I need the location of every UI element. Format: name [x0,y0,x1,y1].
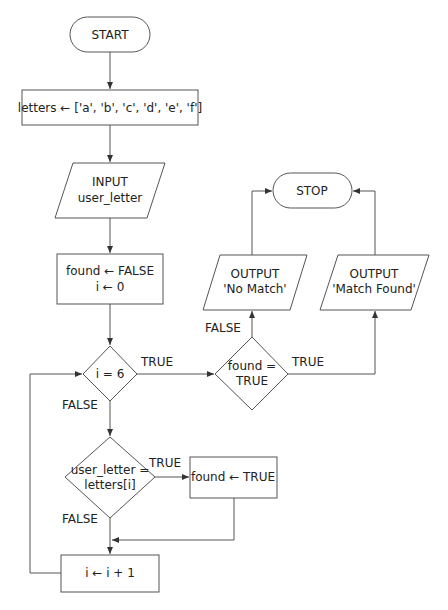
edge-nomatch-to-stop [252,191,272,255]
increment-process: i ← i + 1 [61,555,159,592]
output-nomatch-io: OUTPUT 'No Match' [203,255,307,310]
input-label-line1: INPUT [92,175,129,189]
edge-match-to-stop [353,191,375,255]
cond-found-true-label: TRUE [291,355,324,369]
edge-set-found-merge [112,498,234,540]
output-nomatch-line1: OUTPUT [231,267,281,281]
cond-found-decision: found = TRUE [215,337,288,410]
cond-found-line1: found = [228,359,276,373]
input-label-line2: user_letter [78,191,143,205]
vars-init-line1: found ← FALSE [66,264,154,278]
cond-match-true-label: TRUE [148,456,181,470]
cond-i-decision: i = 6 [83,346,137,401]
cond-match-line1: user_letter = [71,463,150,477]
letters-init-label: letters ← ['a', 'b', 'c', 'd', 'e', 'f'] [18,101,202,115]
cond-found-false-label: FALSE [205,321,241,335]
cond-match-decision: user_letter = letters[i] [65,437,155,518]
cond-i-label: i = 6 [96,367,125,381]
cond-found-line2: TRUE [235,374,268,388]
flowchart-canvas: START letters ← ['a', 'b', 'c', 'd', 'e'… [0,0,448,610]
input-io: INPUT user_letter [55,163,165,218]
output-match-line2: 'Match Found' [332,282,416,296]
stop-terminator: STOP [273,173,352,208]
set-found-label: found ← TRUE [191,470,275,484]
set-found-process: found ← TRUE [190,457,277,498]
stop-label: STOP [296,184,328,198]
start-terminator: START [70,17,150,52]
cond-i-true-label: TRUE [140,355,173,369]
vars-init-process: found ← FALSE i ← 0 [57,254,163,304]
start-label: START [91,28,129,42]
letters-init-process: letters ← ['a', 'b', 'c', 'd', 'e', 'f'] [18,90,202,125]
output-match-line1: OUTPUT [350,267,400,281]
output-match-io: OUTPUT 'Match Found' [320,255,429,310]
increment-label: i ← i + 1 [85,566,135,580]
cond-i-false-label: FALSE [62,398,98,412]
cond-match-false-label: FALSE [62,512,98,526]
vars-init-line2: i ← 0 [96,280,125,294]
cond-match-line2: letters[i] [84,478,135,492]
output-nomatch-line2: 'No Match' [223,282,286,296]
